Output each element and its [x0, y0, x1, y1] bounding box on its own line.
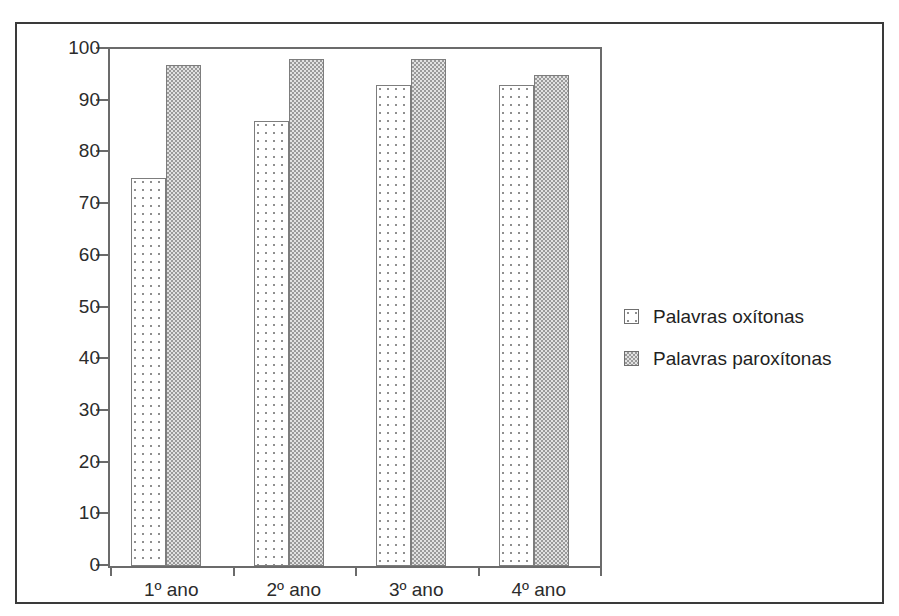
legend-swatch-icon-2: [624, 351, 639, 366]
y-tick-label: 80: [79, 141, 100, 160]
bar-3-series-2: [411, 59, 446, 566]
y-tick-label: 0: [89, 555, 100, 574]
x-tick-label-2: 2º ano: [267, 580, 322, 599]
x-tick-label-3: 3º ano: [389, 580, 444, 599]
x-tick-mark-origin: [110, 566, 112, 576]
plot-area: 1º ano2º ano3º ano4º ano: [108, 47, 602, 568]
y-tick-label: 10: [79, 503, 100, 522]
x-tick-mark: [600, 566, 602, 576]
legend-label-1: Palavras oxítonas: [653, 307, 804, 326]
bar-4-series-1: [499, 85, 534, 566]
bar-2-series-2: [289, 59, 324, 566]
bars-layer: [110, 49, 600, 566]
legend-item-1: Palavras oxítonas: [624, 301, 832, 331]
y-tick-label: 90: [79, 89, 100, 108]
bar-2-series-1: [254, 121, 289, 566]
chart-legend: Palavras oxítonasPalavras paroxítonas: [624, 301, 832, 385]
x-tick-label-1: 1º ano: [144, 580, 199, 599]
legend-label-2: Palavras paroxítonas: [653, 349, 832, 368]
legend-swatch-icon-1: [624, 309, 639, 324]
x-tick-mark: [355, 566, 357, 576]
chart-figure: 0102030405060708090100 1º ano2º ano3º an…: [0, 0, 899, 616]
y-tick-label: 40: [79, 348, 100, 367]
y-tick-label: 50: [79, 296, 100, 315]
y-tick-label: 30: [79, 399, 100, 418]
y-tick-label: 60: [79, 244, 100, 263]
bar-1-series-2: [166, 65, 201, 566]
legend-item-2: Palavras paroxítonas: [624, 343, 832, 373]
y-tick-label: 20: [79, 451, 100, 470]
y-tick-label: 100: [68, 38, 100, 57]
bar-3-series-1: [376, 85, 411, 566]
x-tick-mark: [233, 566, 235, 576]
x-tick-mark: [478, 566, 480, 576]
x-tick-label-4: 4º ano: [512, 580, 567, 599]
y-tick-label: 70: [79, 193, 100, 212]
bar-1-series-1: [131, 178, 166, 566]
bar-4-series-2: [534, 75, 569, 566]
